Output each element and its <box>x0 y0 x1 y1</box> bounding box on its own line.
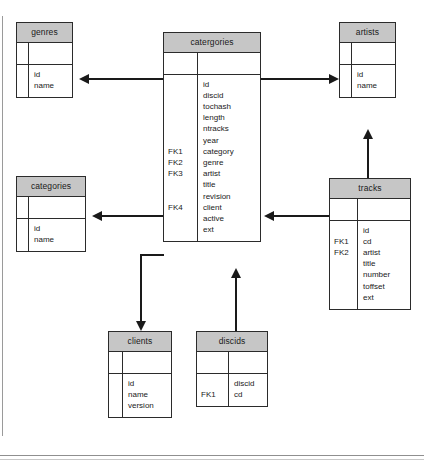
entity-clients-title: clients <box>109 332 171 352</box>
entity-clients-pk-section <box>109 352 171 374</box>
entity-genres-pk-field-column <box>29 43 72 64</box>
entity-categories-pk-field-column <box>29 197 85 218</box>
arrow-catergories-clients <box>136 321 146 331</box>
entity-artists-pk-key-column <box>340 43 352 64</box>
entity-categories-key-column <box>17 219 29 251</box>
entity-catergories-title: catergories <box>164 33 260 53</box>
entity-discids-key-column: FK1 <box>197 374 229 406</box>
connector-catergories-artists <box>260 78 330 80</box>
entity-tracks-pk-field-column <box>358 199 410 220</box>
entity-genres-pk-section <box>17 43 72 65</box>
connector-catergories-genres <box>88 78 164 80</box>
arrow-catergories-categories <box>92 211 102 221</box>
entity-tracks-pk-section <box>330 199 410 221</box>
entity-discids-attributes: FK1 discid cd <box>197 374 267 406</box>
entity-genres[interactable]: genres id name <box>16 22 73 98</box>
entity-discids[interactable]: discids FK1 discid cd <box>196 331 268 407</box>
page-border-bottom <box>0 455 424 456</box>
connector-tracks-artists <box>367 133 369 178</box>
entity-categories[interactable]: categories id name <box>16 176 86 252</box>
entity-catergories-pk-section <box>164 53 260 75</box>
arrow-tracks-catergories <box>264 211 274 221</box>
entity-catergories-pk-key-column <box>164 53 198 74</box>
entity-artists[interactable]: artists id name <box>339 22 396 98</box>
entity-categories-attributes: id name <box>17 219 85 251</box>
entity-discids-pk-field-column <box>229 352 267 373</box>
entity-clients-attributes: id name version <box>109 374 171 418</box>
entity-genres-field-column: id name <box>29 65 72 97</box>
entity-artists-attributes: id name <box>340 65 395 97</box>
entity-discids-title: discids <box>197 332 267 352</box>
arrow-catergories-genres <box>79 74 89 84</box>
entity-artists-field-column: id name <box>352 65 395 97</box>
entity-clients-field-column: id name version <box>123 374 171 418</box>
entity-discids-field-column: discid cd <box>229 374 267 406</box>
entity-catergories-key-column: FK1 FK2 FK3 FK4 <box>164 75 198 242</box>
entity-artists-pk-field-column <box>352 43 395 64</box>
connector-catergories-clients-horizontal <box>140 254 164 256</box>
entity-categories-title: categories <box>17 177 85 197</box>
entity-tracks-key-column: FK1 FK2 <box>330 221 358 309</box>
entity-tracks-field-column: id cd artist title number toffset ext <box>358 221 410 309</box>
entity-catergories-pk-field-column <box>198 53 260 74</box>
entity-clients[interactable]: clients id name version <box>108 331 172 418</box>
arrow-discids-catergories <box>231 268 241 278</box>
entity-genres-title: genres <box>17 23 72 43</box>
connector-catergories-clients-vertical <box>140 254 142 322</box>
entity-catergories-attributes: FK1 FK2 FK3 FK4 id discid tochash length… <box>164 75 260 242</box>
entity-tracks-title: tracks <box>330 179 410 199</box>
entity-categories-pk-key-column <box>17 197 29 218</box>
page-border-left <box>2 16 3 436</box>
entity-discids-pk-section <box>197 352 267 374</box>
entity-catergories-field-column: id discid tochash length ntracks year ca… <box>198 75 260 242</box>
entity-artists-title: artists <box>340 23 395 43</box>
entity-categories-field-column: id name <box>29 219 85 251</box>
entity-genres-attributes: id name <box>17 65 72 97</box>
entity-clients-key-column <box>109 374 123 418</box>
arrow-catergories-artists <box>329 74 339 84</box>
entity-clients-pk-key-column <box>109 352 123 373</box>
entity-artists-pk-section <box>340 43 395 65</box>
entity-tracks-pk-key-column <box>330 199 358 220</box>
entity-genres-pk-key-column <box>17 43 29 64</box>
er-diagram-canvas: genres id name catergories FK1 FK2 FK3 F… <box>0 0 424 467</box>
entity-genres-key-column <box>17 65 29 97</box>
entity-discids-pk-key-column <box>197 352 229 373</box>
entity-categories-pk-section <box>17 197 85 219</box>
entity-clients-pk-field-column <box>123 352 171 373</box>
connector-catergories-categories <box>101 215 164 217</box>
entity-tracks-attributes: FK1 FK2 id cd artist title number toffse… <box>330 221 410 309</box>
arrow-tracks-artists <box>363 129 373 139</box>
entity-catergories[interactable]: catergories FK1 FK2 FK3 FK4 id discid to… <box>163 32 261 242</box>
entity-tracks[interactable]: tracks FK1 FK2 id cd artist title number… <box>329 178 411 310</box>
entity-artists-key-column <box>340 65 352 97</box>
connector-discids-catergories <box>235 272 237 335</box>
page-border-bottom-secondary <box>0 459 424 460</box>
connector-tracks-catergories <box>273 215 330 217</box>
